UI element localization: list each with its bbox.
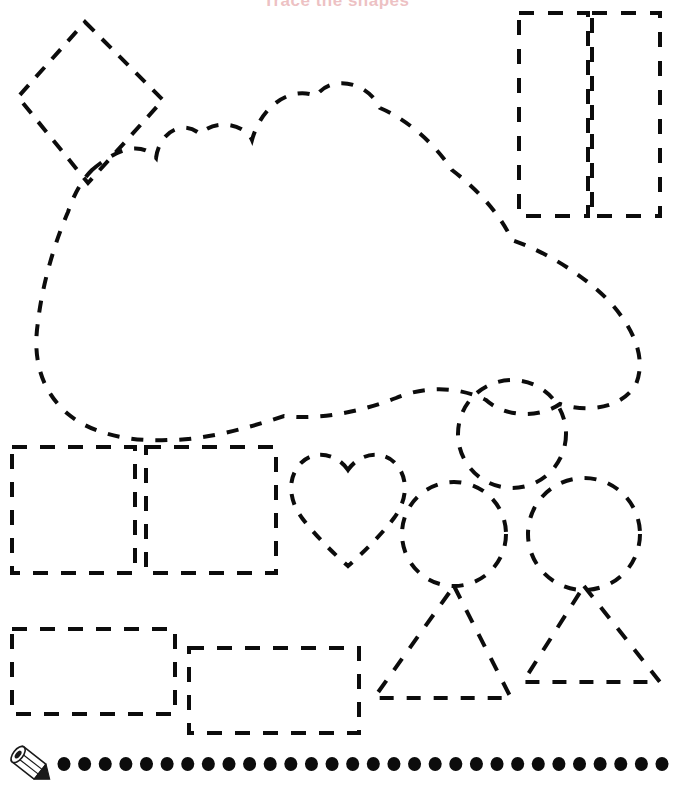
circle-bottom-right-shape[interactable] [528, 478, 640, 590]
shape-group-middle-squares[interactable] [12, 447, 276, 573]
tracing-dot[interactable] [552, 757, 565, 771]
rectangle-bottom-left-1-shape[interactable] [12, 629, 175, 714]
shape-group-diamond[interactable] [18, 22, 163, 183]
shape-group-triangles[interactable] [374, 586, 660, 698]
tracing-dot[interactable] [284, 757, 297, 771]
tracing-art-layer [0, 0, 673, 789]
shape-group-cloud[interactable] [36, 83, 639, 440]
tracing-dot[interactable] [449, 757, 462, 771]
square-middle-left-2-shape[interactable] [146, 447, 276, 573]
tracing-dot[interactable] [264, 757, 277, 771]
shape-group-circles[interactable] [402, 380, 640, 590]
shape-group-bottom-rectangles[interactable] [12, 629, 359, 733]
tracing-dot[interactable] [346, 757, 359, 771]
rectangle-top-right-left-shape[interactable] [519, 13, 588, 216]
shape-group-heart[interactable] [291, 455, 405, 566]
circle-top-shape[interactable] [458, 380, 566, 488]
shape-group-top-right-rectangles[interactable] [519, 13, 660, 216]
tracing-dot[interactable] [243, 757, 256, 771]
tracing-dot[interactable] [161, 757, 174, 771]
tracing-dot[interactable] [387, 757, 400, 771]
heart-middle-shape[interactable] [291, 455, 405, 566]
rectangle-bottom-left-2-shape[interactable] [189, 648, 359, 733]
tracing-dot[interactable] [58, 757, 71, 771]
tracing-dot[interactable] [99, 757, 112, 771]
tracing-dot[interactable] [614, 757, 627, 771]
square-middle-left-1-shape[interactable] [12, 447, 135, 573]
diamond-top-left-shape[interactable] [18, 22, 163, 183]
tracing-dot[interactable] [305, 757, 318, 771]
tracing-dot[interactable] [78, 757, 91, 771]
tracing-dot[interactable] [511, 757, 524, 771]
tracing-dot[interactable] [656, 757, 669, 771]
pencil-icon [8, 744, 55, 787]
tracing-dot[interactable] [140, 757, 153, 771]
tracing-dot[interactable] [635, 757, 648, 771]
tracing-dot[interactable] [573, 757, 586, 771]
tracing-dot[interactable] [222, 757, 235, 771]
rectangle-top-right-right-shape[interactable] [592, 13, 660, 216]
cloud-large-shape[interactable] [36, 83, 639, 440]
tracing-dot[interactable] [408, 757, 421, 771]
triangle-bottom-right-shape[interactable] [523, 586, 660, 682]
tracing-dot[interactable] [326, 757, 339, 771]
triangle-bottom-left-shape[interactable] [374, 586, 511, 698]
worksheet-page: Trace the shapes [0, 0, 673, 789]
tracing-dot[interactable] [429, 757, 442, 771]
tracing-dot[interactable] [181, 757, 194, 771]
tracing-dot[interactable] [470, 757, 483, 771]
circle-bottom-left-shape[interactable] [402, 482, 506, 586]
tracing-dot[interactable] [367, 757, 380, 771]
tracing-dot[interactable] [491, 757, 504, 771]
tracing-dot[interactable] [202, 757, 215, 771]
tracing-dot[interactable] [594, 757, 607, 771]
tracing-dot-row[interactable] [58, 757, 669, 771]
tracing-dot[interactable] [119, 757, 132, 771]
tracing-dot[interactable] [532, 757, 545, 771]
